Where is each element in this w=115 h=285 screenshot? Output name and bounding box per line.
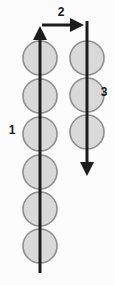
label-1: 1 (9, 124, 16, 136)
top-connector-arrowhead-right-icon (70, 18, 84, 32)
diagram-canvas: 1 2 3 (0, 0, 115, 285)
left-strand-arrowhead-up-icon (33, 26, 47, 40)
label-3: 3 (101, 86, 108, 98)
right-strand-arrowhead-down-icon (80, 162, 94, 176)
label-2: 2 (58, 6, 65, 18)
bead-strand-diagram (0, 0, 115, 285)
